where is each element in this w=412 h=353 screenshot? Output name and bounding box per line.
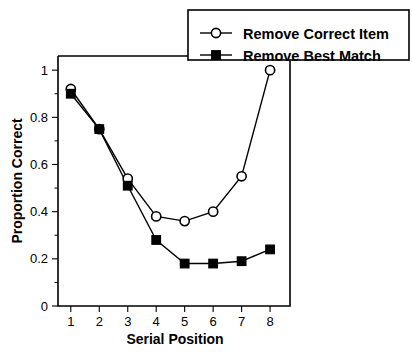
data-point (265, 66, 274, 75)
legend-marker-2 (212, 51, 221, 60)
data-point (95, 125, 104, 134)
chart-figure: 00.20.40.60.81 12345678 Serial Position … (0, 0, 412, 353)
data-point (152, 212, 161, 221)
y-tick-label: 0.2 (30, 251, 48, 266)
series-1-markers (66, 66, 274, 226)
x-tick-label: 3 (124, 314, 131, 329)
x-axis: 12345678 (67, 306, 273, 329)
x-tick-label: 8 (266, 314, 273, 329)
y-tick-label: 0.8 (30, 110, 48, 125)
data-point (180, 216, 189, 225)
y-tick-label: 0.6 (30, 157, 48, 172)
y-tick-label: 1 (41, 63, 48, 78)
chart-legend: Remove Correct ItemRemove Best Match (188, 10, 409, 64)
data-point (209, 207, 218, 216)
data-point (237, 257, 246, 266)
series-1 (71, 70, 270, 221)
legend-label: Remove Correct Item (243, 26, 389, 42)
x-tick-label: 6 (210, 314, 217, 329)
x-tick-label: 2 (96, 314, 103, 329)
data-series-layer (66, 66, 274, 268)
y-tick-label: 0.4 (30, 204, 48, 219)
data-point (237, 172, 246, 181)
x-axis-title: Serial Position (126, 331, 223, 347)
data-point (152, 236, 161, 245)
x-tick-label: 4 (153, 314, 160, 329)
x-tick-label: 7 (238, 314, 245, 329)
line-chart: 00.20.40.60.81 12345678 Serial Position … (0, 0, 412, 353)
x-tick-label: 1 (67, 314, 74, 329)
y-tick-label: 0 (41, 299, 48, 314)
data-point (123, 181, 132, 190)
legend-label: Remove Best Match (243, 48, 381, 64)
series-line (71, 70, 270, 221)
x-tick-label: 5 (181, 314, 188, 329)
plot-frame (58, 56, 290, 306)
y-axis-title: Proportion Correct (9, 118, 25, 244)
data-point (67, 89, 76, 98)
data-point (209, 259, 218, 268)
y-axis: 00.20.40.60.81 (30, 63, 58, 314)
legend-marker-1 (211, 28, 220, 37)
data-point (266, 245, 275, 254)
data-point (180, 259, 189, 268)
